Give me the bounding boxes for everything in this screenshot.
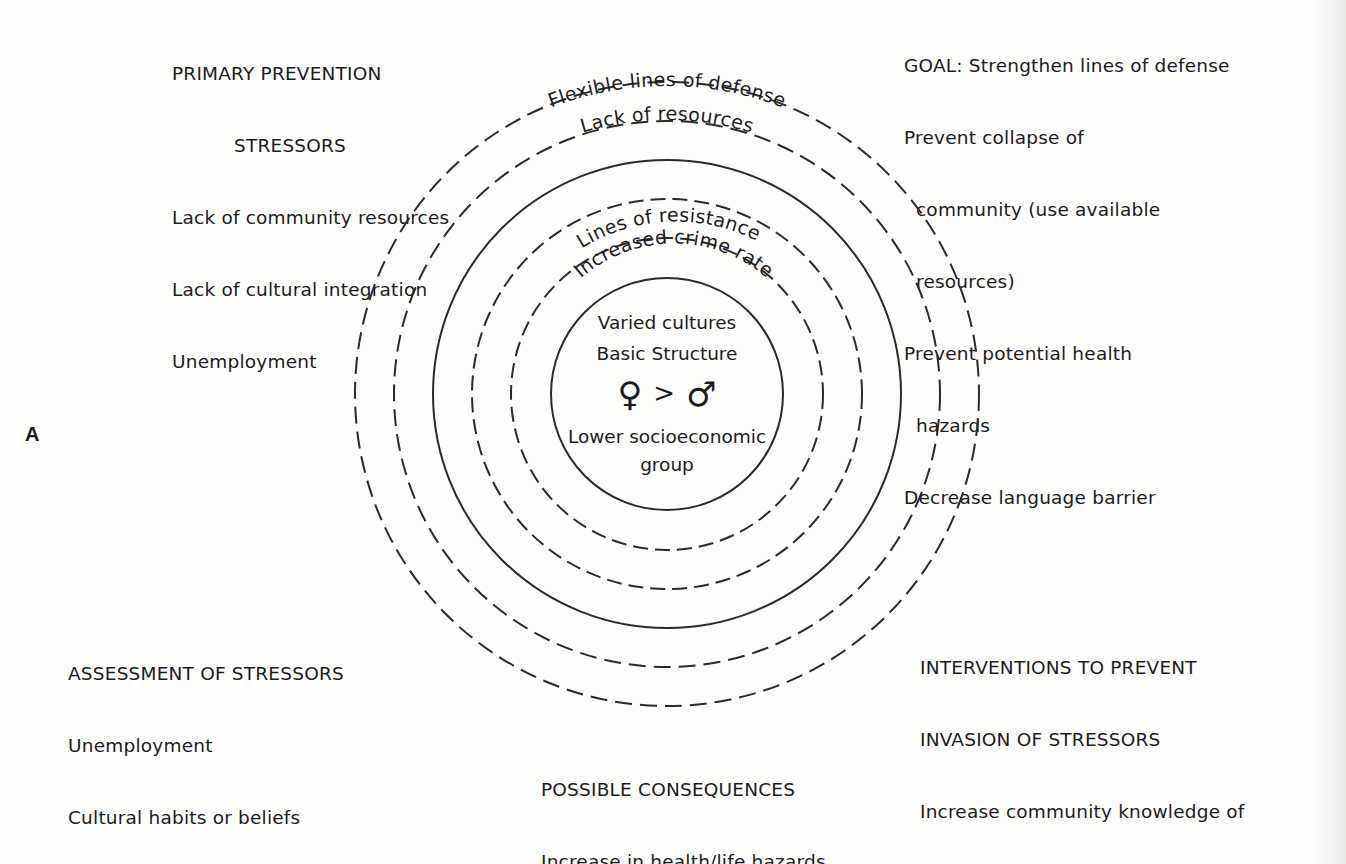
intervention-line: Increase community knowledge of — [920, 800, 1245, 824]
male-symbol-icon: ♂ — [686, 374, 716, 414]
greater-than-sign: > — [653, 378, 675, 408]
core-basic-structure: Basic Structure — [547, 342, 787, 366]
interventions-heading: INTERVENTIONS TO PREVENT — [920, 656, 1245, 680]
assessment-line: Unemployment — [68, 734, 443, 758]
consequences-heading: POSSIBLE CONSEQUENCES — [541, 778, 826, 802]
interventions-heading-2: INVASION OF STRESSORS — [920, 728, 1245, 752]
assessment-block: ASSESSMENT OF STRESSORS Unemployment Cul… — [68, 614, 443, 864]
consequence-line: Increase in health/life hazards — [541, 850, 826, 864]
assessment-heading: ASSESSMENT OF STRESSORS — [68, 662, 443, 686]
female-symbol-icon: ♀ — [618, 374, 643, 414]
core-group: group — [547, 453, 787, 477]
core-lower-socioeconomic: Lower socioeconomic — [547, 425, 787, 449]
consequences-block: POSSIBLE CONSEQUENCES Increase in health… — [541, 730, 826, 864]
gender-comparison: ♀ > ♂ — [547, 374, 787, 417]
interventions-block: INTERVENTIONS TO PREVENT INVASION OF STR… — [920, 608, 1245, 864]
lack-of-resources-label: Lack of resources — [578, 102, 757, 137]
assessment-line: Cultural habits or beliefs — [68, 806, 443, 830]
core-varied-cultures: Varied cultures — [547, 311, 787, 335]
